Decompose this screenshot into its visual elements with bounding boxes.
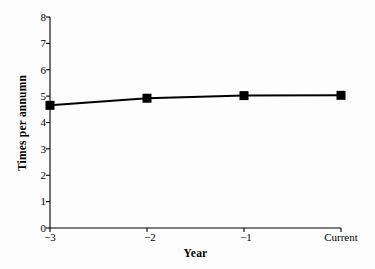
y-tick-marks (46, 17, 50, 228)
axis-lines (50, 17, 341, 228)
plot-area (0, 0, 375, 269)
data-markers (46, 91, 346, 110)
data-point-marker (337, 91, 346, 100)
data-line (50, 95, 341, 105)
data-point-marker (240, 91, 249, 100)
line-chart: Times per annumn 8 7 6 5 4 3 2 1 0 −3 −2… (0, 0, 375, 269)
x-tick-marks (50, 228, 341, 232)
data-point-marker (143, 94, 152, 103)
data-point-marker (46, 101, 55, 110)
